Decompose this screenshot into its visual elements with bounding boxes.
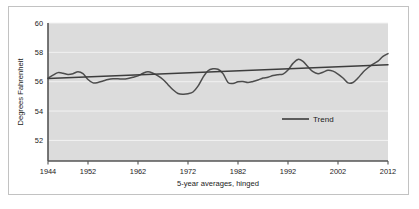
x-tick-label: 1982 [230,167,246,176]
y-tick-label: 58 [35,48,43,57]
figure-container: 6058565452 19441952196219721982199220022… [0,0,419,209]
x-axis-title: 5-year averages, hinged [177,179,259,188]
x-tick-label: 2002 [330,167,346,176]
chart-frame: 6058565452 19441952196219721982199220022… [8,6,409,195]
x-tick-label: 1962 [130,167,146,176]
x-tick-label: 2012 [380,167,396,176]
x-tick-label: 1952 [80,167,96,176]
x-tick-label: 1992 [280,167,296,176]
legend-label-trend: Trend [313,115,334,124]
y-tick-label: 60 [35,19,43,28]
y-tick-labels: 6058565452 [35,19,43,145]
y-tick-label: 54 [35,107,43,116]
x-tick-label: 1944 [40,167,56,176]
y-tick-label: 52 [35,136,43,145]
temperature-trend-chart: 6058565452 19441952196219721982199220022… [9,7,410,196]
y-axis-title: Degrees Fahrenheit [16,58,25,126]
x-tick-labels: 19441952196219721982199220022012 [40,167,396,176]
x-tick-label: 1972 [180,167,196,176]
y-tick-label: 56 [35,77,43,86]
